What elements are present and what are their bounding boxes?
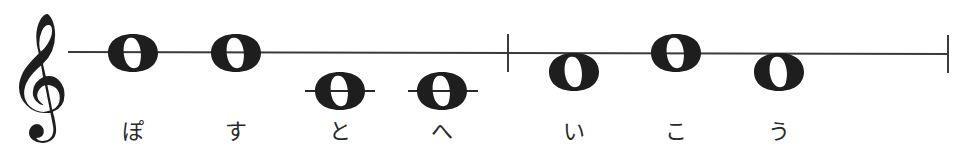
- lyric-7: う: [759, 119, 799, 145]
- lyric-4: へ: [422, 119, 462, 145]
- lyric-1: ぽ: [113, 119, 153, 145]
- lyric-6: こ: [656, 119, 696, 145]
- whole-note-7: [754, 53, 804, 91]
- svg-text:𝄞: 𝄞: [6, 12, 70, 143]
- treble-clef-icon: 𝄞: [6, 12, 70, 143]
- whole-note-5: [549, 53, 599, 91]
- lyric-3: と: [320, 119, 360, 145]
- lyric-2: す: [216, 119, 256, 145]
- lyric-5: い: [554, 119, 594, 145]
